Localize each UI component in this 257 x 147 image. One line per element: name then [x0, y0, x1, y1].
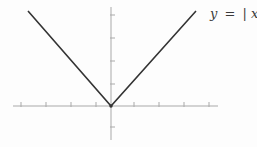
abs-value-plot: [0, 0, 257, 147]
curve-label-x: x: [251, 6, 257, 21]
curve-label-bar-left: |: [243, 6, 247, 21]
figure-canvas: y = | x |: [0, 0, 257, 147]
curve-label-equals: =: [225, 6, 236, 21]
curve-label-y: y: [210, 6, 217, 21]
curve-label: y = | x |: [210, 7, 257, 20]
vertex-dot: [109, 104, 112, 107]
